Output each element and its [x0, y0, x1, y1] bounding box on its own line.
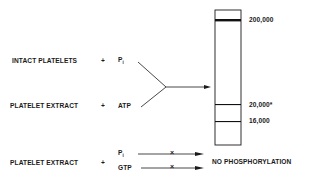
gel-lane [215, 10, 241, 145]
gel-band-200000 [215, 19, 241, 21]
no-phosphorylation-label: NO PHOSPHORYLATION [212, 158, 291, 165]
plus-sign: + [101, 57, 105, 64]
atp-arrow-line [141, 87, 166, 107]
band-label-16000: 16,000 [249, 117, 270, 124]
atp-reagent: ATP [118, 102, 131, 109]
platelet-extract-label: PLATELET EXTRACT [10, 102, 78, 109]
arrowhead-icon [204, 85, 211, 89]
platelet-extract-label-2: PLATELET EXTRACT [10, 159, 78, 166]
gel-band-16000 [215, 121, 241, 122]
pi-arrow-line [138, 62, 166, 87]
plus-sign: + [101, 102, 105, 109]
band-label-200000: 200,000 [249, 16, 274, 23]
gel-band-20000 [215, 104, 241, 105]
intact-platelets-label: INTACT PLATELETS [12, 57, 77, 64]
arrowhead-icon [195, 166, 204, 170]
pi-reagent: Pi [118, 56, 124, 65]
blocked-x-icon: × [170, 149, 174, 156]
pi-reagent-2: Pi [118, 149, 124, 158]
plus-sign: + [101, 159, 105, 166]
blocked-x-icon: × [170, 163, 174, 170]
gtp-reagent: GTP [118, 164, 132, 171]
band-label-20000: 20,000* [249, 101, 272, 108]
arrowhead-icon [195, 152, 204, 156]
